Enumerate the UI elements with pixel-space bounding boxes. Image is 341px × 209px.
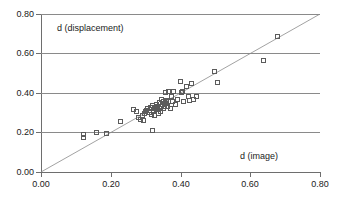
x-tick-mark xyxy=(250,172,251,177)
x-tick-mark xyxy=(181,172,182,177)
y-tick-label-080: 0.80 xyxy=(16,10,34,19)
x-tick-label-080: 0.80 xyxy=(300,180,340,189)
gridline xyxy=(41,53,320,54)
y-tick-label-000: 0.00 xyxy=(16,168,34,177)
data-point xyxy=(194,94,199,99)
data-point xyxy=(134,109,139,114)
data-point xyxy=(181,99,186,104)
data-point xyxy=(104,131,109,136)
data-point xyxy=(141,118,146,123)
data-point xyxy=(173,102,178,107)
scatter-chart: 0.80 0.60 0.40 0.20 0.00 0.00 0.20 0.40 … xyxy=(0,0,341,209)
x-tick-mark xyxy=(41,172,42,177)
x-tick-mark xyxy=(111,172,112,177)
data-point xyxy=(178,79,183,84)
plot-area xyxy=(41,14,320,172)
data-point xyxy=(215,80,220,85)
data-point xyxy=(184,84,189,89)
data-point xyxy=(275,34,280,39)
data-point xyxy=(189,81,194,86)
x-tick-label-040: 0.40 xyxy=(161,180,201,189)
data-point xyxy=(168,106,173,111)
data-point xyxy=(175,97,180,102)
x-tick-label-020: 0.20 xyxy=(91,180,131,189)
y-tick-label-040: 0.40 xyxy=(16,89,34,98)
data-point xyxy=(180,89,185,94)
y-tick-label-060: 0.60 xyxy=(16,49,34,58)
gridline xyxy=(41,14,320,15)
x-tick-label-000: 0.00 xyxy=(21,180,61,189)
data-point xyxy=(261,58,266,63)
data-point xyxy=(94,130,99,135)
data-point xyxy=(118,119,123,124)
y-tick-label-020: 0.20 xyxy=(16,128,34,137)
x-tick-label-060: 0.60 xyxy=(230,180,270,189)
data-point xyxy=(150,128,155,133)
data-point xyxy=(171,89,176,94)
data-point xyxy=(212,69,217,74)
data-point xyxy=(81,135,86,140)
x-tick-mark xyxy=(320,172,321,177)
